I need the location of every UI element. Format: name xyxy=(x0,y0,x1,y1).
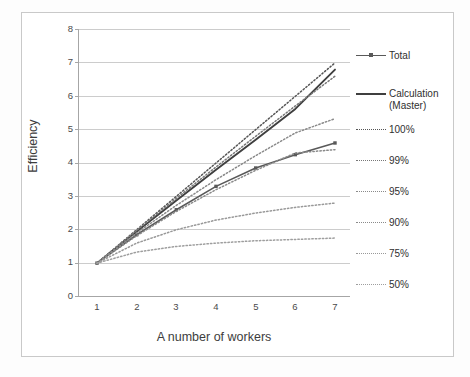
x-tick-7: 7 xyxy=(325,301,345,312)
x-tick-6: 6 xyxy=(285,301,305,312)
legend-swatch-50 xyxy=(356,279,386,291)
legend-item-90[interactable]: 90% xyxy=(356,217,409,231)
legend-marker-icon xyxy=(369,53,373,57)
y-tick-6: 6 xyxy=(53,90,73,101)
legend-line-icon xyxy=(356,160,386,161)
x-axis-label: A number of workers xyxy=(78,330,350,344)
legend-swatch-99 xyxy=(356,155,386,167)
x-tick-4: 4 xyxy=(206,301,226,312)
legend-label-100: 100% xyxy=(389,124,415,136)
y-tick-8: 8 xyxy=(53,23,73,34)
y-axis-label: Efficiency xyxy=(26,91,40,201)
x-tick-3: 3 xyxy=(166,301,186,312)
series-marker-total-3 xyxy=(214,185,217,188)
legend-swatch-95 xyxy=(356,186,386,198)
legend-label-90: 90% xyxy=(389,217,409,229)
series-marker-total-6 xyxy=(333,141,336,144)
legend-item-75[interactable]: 75% xyxy=(356,248,409,262)
legend-swatch-90 xyxy=(356,217,386,229)
legend-swatch-total xyxy=(356,50,386,62)
legend-swatch-calculation-master xyxy=(356,88,386,100)
legend-line-icon xyxy=(356,93,386,95)
legend-label-95: 95% xyxy=(389,186,409,198)
legend-line-icon xyxy=(356,253,386,254)
legend-item-50[interactable]: 50% xyxy=(356,279,409,293)
x-tick-1: 1 xyxy=(87,301,107,312)
legend-item-total[interactable]: Total xyxy=(356,50,410,64)
legend-item-calculation-master[interactable]: Calculation (Master) xyxy=(356,88,438,102)
legend-line-icon xyxy=(356,284,386,285)
legend-label-calculation-master: Calculation (Master) xyxy=(389,88,438,111)
legend-line-icon xyxy=(356,222,386,223)
y-tick-0: 0 xyxy=(53,290,73,301)
legend-label-75: 75% xyxy=(389,248,409,260)
y-tick-1: 1 xyxy=(53,256,73,267)
legend-line-icon xyxy=(356,129,386,130)
chart-figure: 8 7 6 5 4 3 2 1 0 1 2 3 4 5 6 7 Efficien… xyxy=(0,0,470,377)
legend-item-95[interactable]: 95% xyxy=(356,186,409,200)
y-tick-5: 5 xyxy=(53,123,73,134)
y-tick-3: 3 xyxy=(53,190,73,201)
y-tick-7: 7 xyxy=(53,56,73,67)
legend-label-50: 50% xyxy=(389,279,409,291)
x-tick-2: 2 xyxy=(127,301,147,312)
x-tick-5: 5 xyxy=(246,301,266,312)
legend-line-icon xyxy=(356,191,386,192)
legend-label-99: 99% xyxy=(389,155,409,167)
legend-item-100[interactable]: 100% xyxy=(356,124,415,138)
legend-label-total: Total xyxy=(389,50,410,62)
y-tick-4: 4 xyxy=(53,156,73,167)
y-tick-2: 2 xyxy=(53,223,73,234)
legend-swatch-100 xyxy=(356,124,386,136)
legend-item-99[interactable]: 99% xyxy=(356,155,409,169)
legend-swatch-75 xyxy=(356,248,386,260)
